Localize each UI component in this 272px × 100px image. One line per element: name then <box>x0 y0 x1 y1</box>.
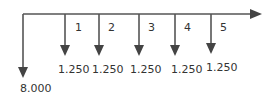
period-2-arrow-icon <box>94 45 104 56</box>
amount-label: 1.250 <box>58 64 90 75</box>
axis-arrow-icon <box>250 9 262 19</box>
period-label: 3 <box>148 22 155 33</box>
period-1-arrow-icon <box>60 45 70 56</box>
amount-label: 1.250 <box>130 64 162 75</box>
period-label: 1 <box>75 22 82 33</box>
amount-label: 1.250 <box>171 64 203 75</box>
period-label: 2 <box>108 22 115 33</box>
period-label: 4 <box>184 22 191 33</box>
period-label: 5 <box>220 22 227 33</box>
amount-label: 1.250 <box>92 64 124 75</box>
period-3-arrow-icon <box>134 45 144 56</box>
amount-label: 1.250 <box>206 62 238 73</box>
initial-outflow-arrow-icon <box>18 67 28 78</box>
period-4-arrow-icon <box>170 45 180 56</box>
initial-outflow-label: 8.000 <box>20 83 52 94</box>
period-5-arrow-icon <box>206 43 216 54</box>
